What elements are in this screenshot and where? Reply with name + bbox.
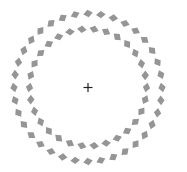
ring-element (132, 119, 139, 125)
ring-element (55, 135, 62, 142)
ring-element (121, 148, 128, 155)
concentric-rings-illusion (0, 0, 187, 172)
ring-element (47, 20, 54, 27)
ring-element (21, 121, 28, 128)
illusion-figure (0, 0, 187, 172)
ring-element (37, 50, 44, 56)
ring-element (149, 47, 156, 54)
ring-element (114, 34, 121, 41)
